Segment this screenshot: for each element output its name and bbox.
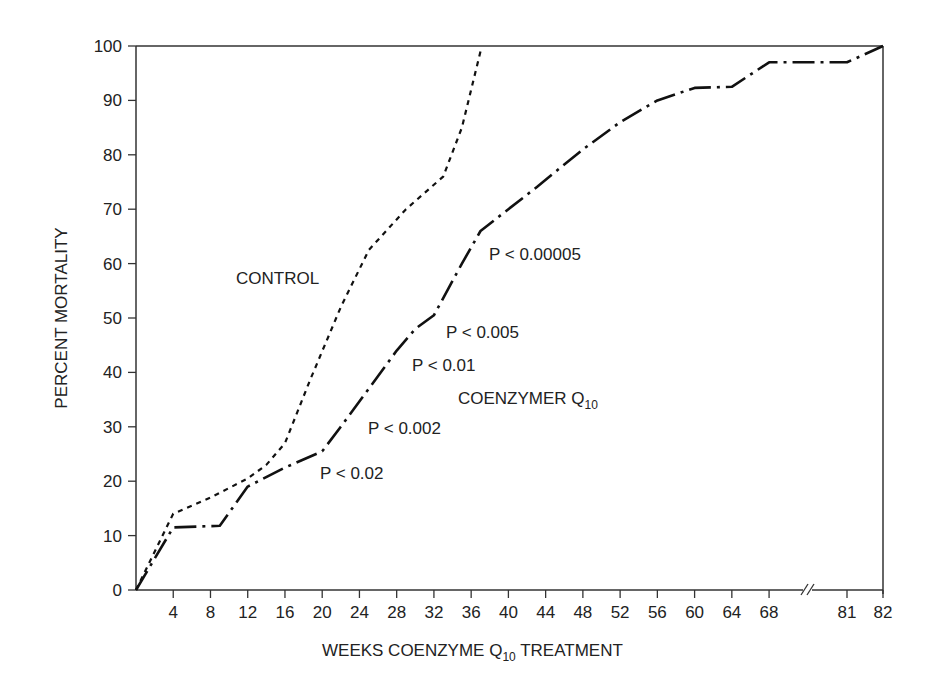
y-tick-label: 10: [103, 527, 122, 546]
x-tick-label: 4: [169, 603, 178, 622]
control-line: [136, 51, 481, 590]
x-tick-label: 8: [206, 603, 215, 622]
x-tick-label: 28: [387, 603, 406, 622]
x-tick-label: 81: [838, 603, 857, 622]
x-tick-label: 44: [536, 603, 555, 622]
y-tick-label: 50: [103, 309, 122, 328]
x-tick-label: 36: [462, 603, 481, 622]
y-tick-label: 40: [103, 363, 122, 382]
y-tick-label: 100: [94, 37, 122, 56]
y-tick-label: 0: [113, 581, 122, 600]
y-tick-label: 80: [103, 146, 122, 165]
x-tick-label: 48: [573, 603, 592, 622]
annotation-label: COENZYMER Q10: [458, 389, 598, 412]
annotation-label: P < 0.00005: [489, 245, 581, 264]
coenzyme-q10-line: [136, 46, 883, 590]
x-tick-label: 24: [350, 603, 369, 622]
x-tick-label: 68: [760, 603, 779, 622]
x-axis-ticks: 481216202428323640444852566064688182: [169, 590, 893, 622]
y-tick-label: 90: [103, 91, 122, 110]
x-tick-label: 32: [424, 603, 443, 622]
x-tick-label: 52: [611, 603, 630, 622]
y-tick-label: 30: [103, 418, 122, 437]
x-tick-label: 12: [238, 603, 257, 622]
mortality-chart: 0102030405060708090100 48121620242832364…: [0, 0, 940, 693]
x-tick-label: 20: [313, 603, 332, 622]
annotation-label: P < 0.005: [446, 323, 519, 342]
y-tick-label: 70: [103, 200, 122, 219]
x-tick-label: 64: [722, 603, 741, 622]
annotation-label: P < 0.02: [320, 464, 384, 483]
y-tick-label: 20: [103, 472, 122, 491]
y-axis-ticks: 0102030405060708090100: [94, 37, 136, 600]
x-axis-label: WEEKS COENZYME Q10 TREATMENT: [322, 641, 623, 664]
annotations: CONTROLCOENZYMER Q10P < 0.02P < 0.002P <…: [236, 245, 598, 483]
x-tick-label: 16: [275, 603, 294, 622]
x-tick-label: 82: [874, 603, 893, 622]
y-tick-label: 60: [103, 255, 122, 274]
x-tick-label: 56: [648, 603, 667, 622]
plot-frame: [136, 46, 883, 595]
annotation-label: P < 0.002: [368, 419, 441, 438]
data-series: [136, 46, 883, 590]
annotation-label: P < 0.01: [412, 356, 476, 375]
x-tick-label: 60: [685, 603, 704, 622]
x-tick-label: 40: [499, 603, 518, 622]
annotation-label: CONTROL: [236, 269, 319, 288]
y-axis-label: PERCENT MORTALITY: [52, 227, 71, 408]
